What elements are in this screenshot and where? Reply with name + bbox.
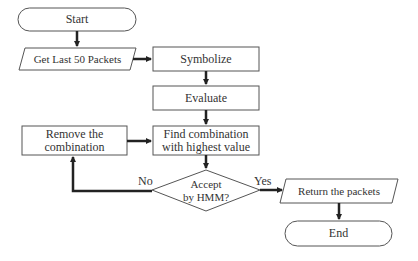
get-packets-label: Get Last 50 Packets [19,48,136,70]
find-label-line1: Find combination [164,128,249,141]
edge-label-no: No [138,174,153,189]
accept-label-line2: by HMM? [183,191,229,204]
evaluate-label: Evaluate [153,86,259,110]
edge-label-yes: Yes [254,174,271,189]
remove-label: Remove the combination [22,126,127,155]
find-label-line2: with highest value [162,141,250,154]
accept-label: Accept by HMM? [170,176,242,206]
return-label: Return the packets [280,179,398,203]
symbolize-label: Symbolize [153,47,259,71]
start-label: Start [18,8,136,31]
accept-label-line1: Accept [190,178,221,191]
end-label: End [285,221,392,246]
remove-label-line2: combination [45,141,105,154]
find-label: Find combination with highest value [153,126,259,155]
remove-label-line1: Remove the [46,128,104,141]
